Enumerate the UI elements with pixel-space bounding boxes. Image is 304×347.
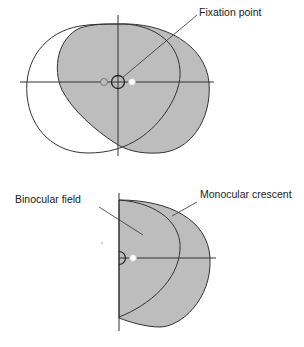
right-blind-spot bbox=[129, 79, 136, 86]
fixation-point-label: Fixation point bbox=[199, 6, 262, 18]
top-diagram: Fixation point bbox=[20, 6, 262, 156]
binocular-field-label: Binocular field bbox=[15, 193, 81, 205]
monocular-leader-line bbox=[172, 202, 197, 216]
monocular-hemifield bbox=[119, 200, 210, 327]
monocular-crescent-label: Monocular crescent bbox=[200, 188, 292, 200]
bottom-diagram: Binocular field Monocular crescent bbox=[15, 188, 292, 331]
right-eye-field bbox=[57, 24, 209, 153]
bottom-blind-spot bbox=[130, 255, 137, 262]
stray-dot bbox=[101, 242, 102, 243]
visual-field-diagram: Fixation point Binocular field Monocular… bbox=[0, 0, 304, 347]
left-blind-spot bbox=[101, 79, 108, 86]
